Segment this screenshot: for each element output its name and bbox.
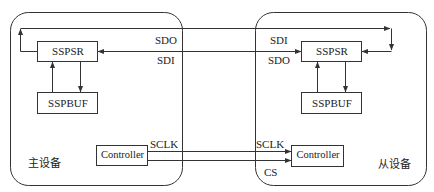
slave-device-label: 从设备: [378, 159, 411, 171]
master-sspbuf-label: SSPBUF: [38, 97, 98, 109]
slave-sclk-label: SCLK: [256, 138, 284, 150]
master-sclk-label: SCLK: [150, 138, 178, 150]
master-sspsr-label: SSPSR: [38, 45, 98, 57]
slave-cs-label: CS: [264, 166, 277, 178]
master-sdo-label: SDO: [155, 34, 177, 46]
master-sdi-label: SDI: [157, 54, 175, 66]
slave-sdi-label: SDI: [270, 34, 288, 46]
master-device-label: 主设备: [28, 158, 61, 170]
master-sspsr-out-wire: [21, 29, 38, 52]
slave-sdo-label: SDO: [268, 54, 290, 66]
diagram-canvas: [0, 0, 434, 192]
master-controller-label: Controller: [97, 149, 148, 161]
slave-sspsr-label: SSPSR: [302, 45, 362, 57]
slave-sspbuf-label: SSPBUF: [302, 97, 362, 109]
slave-controller-label: Controller: [292, 149, 344, 161]
